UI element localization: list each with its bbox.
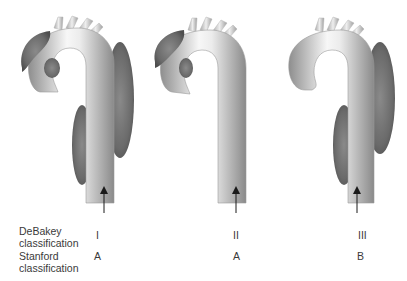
false-lumen-root	[179, 58, 193, 78]
debakey-row-label: DeBakey classification	[19, 225, 79, 249]
stanford-value-panel-1: A	[94, 250, 101, 262]
aortic-dissection-diagram	[0, 0, 407, 220]
aorta-arch	[289, 30, 374, 203]
stanford-value-panel-3: B	[357, 250, 364, 262]
debakey-label-line1: DeBakey	[19, 225, 79, 237]
debakey-label-line2: classification	[19, 237, 79, 249]
false-lumen-root	[44, 58, 60, 78]
debakey-value-panel-2: II	[233, 229, 239, 241]
debakey-value-panel-1: I	[96, 229, 99, 241]
stanford-label-line1: Stanford	[19, 250, 79, 262]
aorta-panel-3	[289, 17, 395, 213]
aorta-arch	[160, 30, 246, 203]
aorta-arch	[28, 28, 114, 203]
stanford-label-line2: classification	[19, 262, 79, 274]
aorta-panel-2	[155, 17, 246, 213]
stanford-value-panel-2: A	[233, 250, 240, 262]
aorta-panel-1	[21, 16, 134, 213]
stanford-row-label: Stanford classification	[19, 250, 79, 274]
debakey-value-panel-3: III	[358, 229, 367, 241]
